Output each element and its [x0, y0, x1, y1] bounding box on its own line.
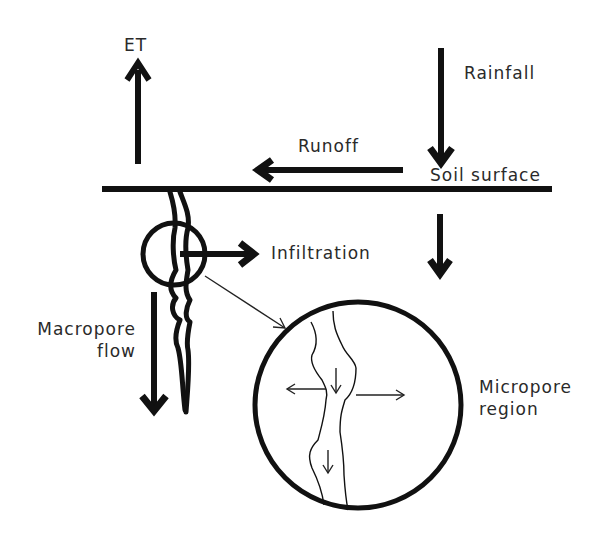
et-label: ET [124, 34, 147, 56]
soil-surface-label: Soil surface [430, 164, 541, 186]
macropore-flow-label: Macropore flow [20, 318, 136, 362]
percolation-arrow-icon [430, 214, 450, 274]
rainfall-label: Rainfall [464, 62, 535, 84]
micropore-flow-arrows [287, 368, 404, 473]
zoom-pointer-arrow-icon [205, 276, 285, 328]
micropore-circle [255, 302, 461, 508]
runoff-arrow-icon [258, 160, 403, 180]
runoff-label: Runoff [298, 135, 359, 157]
micropore-label-line2: region [479, 398, 572, 420]
micropore-region-label: Micropore region [479, 376, 572, 420]
micropore-label-line1: Micropore [479, 376, 572, 398]
et-arrow-icon [127, 63, 149, 164]
infiltration-arrow-icon [180, 243, 254, 265]
infiltration-label: Infiltration [271, 242, 371, 264]
rainfall-arrow-icon [430, 48, 452, 163]
macropore-flow-arrow-icon [142, 292, 166, 411]
macropore-label-line2: flow [20, 340, 136, 362]
micropore-crack [310, 311, 356, 510]
macropore-label-line1: Macropore [20, 318, 136, 340]
